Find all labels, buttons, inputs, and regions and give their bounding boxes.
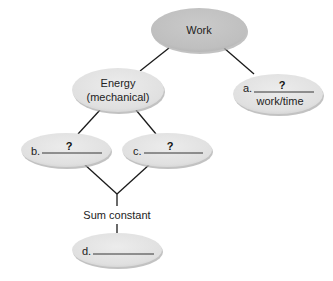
node-b-prefix: b. — [31, 145, 40, 157]
edge-work-a — [224, 48, 254, 74]
node-work: Work — [151, 8, 248, 54]
node-a: a. ? work/time — [233, 74, 324, 116]
node-b: b. ? — [21, 133, 112, 169]
node-work-label: Work — [186, 24, 212, 36]
node-a-prefix: a. — [243, 82, 252, 94]
concept-map-canvas: Work Energy (mechanical) a. ? work/time … — [0, 0, 333, 281]
node-a-sublabel: work/time — [255, 95, 303, 107]
node-c-question-mark: ? — [167, 140, 174, 152]
edge-c-join — [117, 164, 150, 194]
node-c-prefix: c. — [133, 145, 142, 157]
node-d: d. — [72, 233, 163, 269]
node-energy-line1: Energy — [101, 77, 136, 89]
node-d-prefix: d. — [82, 245, 91, 257]
node-c: c. ? — [122, 133, 213, 169]
node-energy-shape — [72, 68, 164, 112]
node-energy: Energy (mechanical) — [72, 68, 165, 114]
sum-constant-label: Sum constant — [83, 209, 150, 221]
concept-map-svg: Work Energy (mechanical) a. ? work/time … — [0, 0, 333, 281]
node-b-question-mark: ? — [66, 140, 73, 152]
edge-energy-c — [136, 110, 156, 134]
node-energy-line2: (mechanical) — [87, 91, 150, 103]
node-a-question-mark: ? — [279, 79, 286, 91]
edge-b-join — [84, 164, 117, 194]
edge-energy-b — [78, 110, 100, 134]
edge-work-energy — [140, 48, 169, 71]
